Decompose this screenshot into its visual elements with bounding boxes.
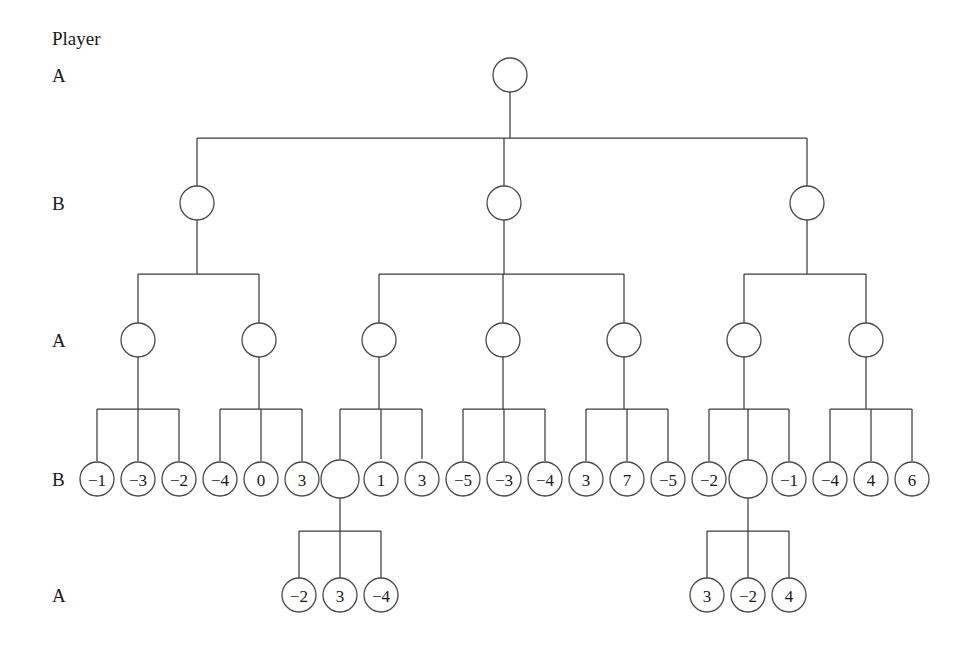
row-label-4-player-a: A xyxy=(52,585,66,606)
node-circle xyxy=(121,323,155,357)
tree-node-L17-decision[interactable] xyxy=(729,460,767,498)
node-circle xyxy=(849,323,883,357)
tree-node-L5-payoff[interactable]: 0 xyxy=(244,462,278,496)
node-payoff-label: −1 xyxy=(88,471,106,490)
tree-node-D4-payoff[interactable]: 3 xyxy=(690,578,724,612)
node-payoff-label: −4 xyxy=(536,471,555,490)
node-payoff-label: −3 xyxy=(129,471,147,490)
node-payoff-label: 0 xyxy=(257,471,266,490)
tree-node-L12-payoff[interactable]: −4 xyxy=(528,462,562,496)
node-payoff-label: 3 xyxy=(582,471,591,490)
node-circle xyxy=(321,460,359,498)
node-payoff-label: 4 xyxy=(785,587,794,606)
tree-node-L7-decision[interactable] xyxy=(321,460,359,498)
node-payoff-label: −1 xyxy=(780,471,798,490)
tree-node-a5-decision[interactable] xyxy=(607,323,641,357)
node-payoff-label: −2 xyxy=(290,587,308,606)
tree-node-L19-payoff[interactable]: −4 xyxy=(813,462,847,496)
tree-node-L16-payoff[interactable]: −2 xyxy=(692,462,726,496)
tree-node-L13-payoff[interactable]: 3 xyxy=(569,462,603,496)
node-payoff-label: −4 xyxy=(821,471,840,490)
tree-node-D5-payoff[interactable]: −2 xyxy=(731,578,765,612)
tree-node-L10-payoff[interactable]: −5 xyxy=(446,462,480,496)
tree-node-L9-payoff[interactable]: 3 xyxy=(405,462,439,496)
node-payoff-label: −2 xyxy=(739,587,757,606)
node-payoff-label: −2 xyxy=(700,471,718,490)
row-label-0-player-a: A xyxy=(52,65,66,86)
row-label-3-player-b: B xyxy=(52,469,65,490)
node-circle xyxy=(362,323,396,357)
tree-node-b3-decision[interactable] xyxy=(790,186,824,220)
node-payoff-label: −5 xyxy=(659,471,677,490)
node-payoff-label: 1 xyxy=(377,471,386,490)
tree-node-L3-payoff[interactable]: −2 xyxy=(162,462,196,496)
tree-node-a7-decision[interactable] xyxy=(849,323,883,357)
tree-node-L4-payoff[interactable]: −4 xyxy=(203,462,237,496)
node-circle xyxy=(607,323,641,357)
tree-node-n0-decision[interactable] xyxy=(493,58,527,92)
tree-node-L1-payoff[interactable]: −1 xyxy=(80,462,114,496)
node-circle xyxy=(493,58,527,92)
tree-node-a4-decision[interactable] xyxy=(486,323,520,357)
tree-node-L11-payoff[interactable]: −3 xyxy=(487,462,521,496)
node-payoff-label: 3 xyxy=(336,587,345,606)
node-circle xyxy=(242,323,276,357)
node-payoff-label: 7 xyxy=(623,471,632,490)
tree-node-a3-decision[interactable] xyxy=(362,323,396,357)
tree-node-a6-decision[interactable] xyxy=(727,323,761,357)
node-payoff-label: −4 xyxy=(372,587,391,606)
tree-node-D2-payoff[interactable]: 3 xyxy=(323,578,357,612)
node-circle xyxy=(486,323,520,357)
node-payoff-label: −3 xyxy=(495,471,513,490)
node-payoff-label: 3 xyxy=(418,471,427,490)
tree-node-D1-payoff[interactable]: −2 xyxy=(282,578,316,612)
player-header-label: Player xyxy=(52,28,101,49)
game-tree-figure: −1−3−2−40313−5−3−437−5−2−1−446−23−43−24 … xyxy=(0,0,975,655)
node-circle xyxy=(487,186,521,220)
node-payoff-label: −4 xyxy=(211,471,230,490)
tree-node-b1-decision[interactable] xyxy=(180,186,214,220)
tree-node-D6-payoff[interactable]: 4 xyxy=(772,578,806,612)
node-payoff-label: −2 xyxy=(170,471,188,490)
tree-node-L6-payoff[interactable]: 3 xyxy=(285,462,319,496)
node-circle xyxy=(790,186,824,220)
node-circle xyxy=(729,460,767,498)
node-payoff-label: 4 xyxy=(867,471,876,490)
node-circle xyxy=(727,323,761,357)
node-payoff-label: −5 xyxy=(454,471,472,490)
node-payoff-label: 3 xyxy=(703,587,712,606)
node-circle xyxy=(180,186,214,220)
tree-node-L8-payoff[interactable]: 1 xyxy=(364,462,398,496)
node-payoff-label: 3 xyxy=(298,471,307,490)
row-label-1-player-b: B xyxy=(52,193,65,214)
tree-node-L21-payoff[interactable]: 6 xyxy=(895,462,929,496)
tree-node-b2-decision[interactable] xyxy=(487,186,521,220)
tree-node-a1-decision[interactable] xyxy=(121,323,155,357)
tree-node-D3-payoff[interactable]: −4 xyxy=(364,578,398,612)
tree-node-L15-payoff[interactable]: −5 xyxy=(651,462,685,496)
tree-node-L18-payoff[interactable]: −1 xyxy=(772,462,806,496)
tree-node-L14-payoff[interactable]: 7 xyxy=(610,462,644,496)
node-payoff-label: 6 xyxy=(908,471,917,490)
tree-node-L2-payoff[interactable]: −3 xyxy=(121,462,155,496)
tree-node-a2-decision[interactable] xyxy=(242,323,276,357)
row-label-2-player-a: A xyxy=(52,330,66,351)
tree-node-L20-payoff[interactable]: 4 xyxy=(854,462,888,496)
